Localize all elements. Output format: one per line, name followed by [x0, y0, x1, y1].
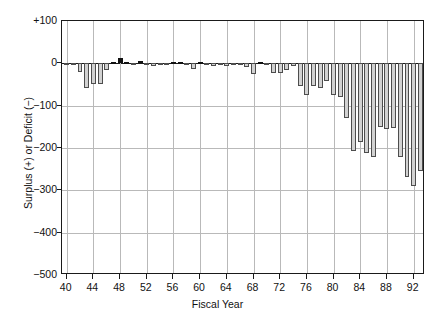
- bar: [311, 63, 316, 86]
- x-axis-tick-label: 72: [273, 281, 285, 293]
- bar: [398, 63, 403, 157]
- bar: [218, 63, 223, 65]
- y-axis-tick-label: −300: [33, 183, 57, 195]
- y-axis-tick-mark: [57, 147, 61, 148]
- x-axis-tick-mark: [199, 274, 200, 279]
- bar: [104, 63, 109, 70]
- bar: [191, 63, 196, 69]
- x-axis-tick-mark: [333, 274, 334, 279]
- x-axis-tick-label: 88: [380, 281, 392, 293]
- y-axis-tick-mark: [57, 62, 61, 63]
- x-axis-tick-mark: [359, 274, 360, 279]
- x-axis-tick-mark: [146, 274, 147, 279]
- x-axis-tick-mark: [386, 274, 387, 279]
- bar: [144, 63, 149, 65]
- x-axis-tick-label: 56: [167, 281, 179, 293]
- bar: [298, 63, 303, 85]
- y-axis-tick-label: −500: [33, 268, 57, 280]
- bar: [78, 63, 83, 72]
- x-axis-tick-label: 84: [353, 281, 365, 293]
- bar: [244, 63, 249, 67]
- y-axis-tick-mark: [57, 105, 61, 106]
- bar: [164, 63, 169, 65]
- bar: [98, 63, 103, 83]
- x-axis-tick-label: 92: [407, 281, 419, 293]
- x-axis-tick-mark: [279, 274, 280, 279]
- bar: [291, 63, 296, 66]
- y-axis-label: Surplus (+) or Deficit (−): [22, 38, 34, 268]
- bar: [371, 63, 376, 157]
- bar: [418, 63, 423, 171]
- x-axis-tick-mark: [92, 274, 93, 279]
- bar: [384, 63, 389, 129]
- x-axis-tick-label: 68: [247, 281, 259, 293]
- bar: [411, 63, 416, 186]
- bar: [331, 63, 336, 94]
- plot-area: [61, 20, 424, 274]
- bar: [71, 63, 76, 65]
- y-axis-tick-label: −400: [33, 226, 57, 238]
- bar: [284, 63, 289, 69]
- bar: [124, 62, 129, 64]
- bar: [324, 63, 329, 80]
- x-axis-tick-label: 60: [193, 281, 205, 293]
- bar: [224, 63, 229, 66]
- bar: [198, 62, 203, 64]
- bar: [131, 63, 136, 65]
- x-axis-label: Fiscal Year: [0, 298, 435, 310]
- bar: [278, 63, 283, 73]
- x-axis-tick-label: 40: [60, 281, 72, 293]
- bar: [118, 58, 123, 63]
- bar: [151, 63, 156, 66]
- x-axis-tick-mark: [172, 274, 173, 279]
- x-axis-tick-label: 44: [87, 281, 99, 293]
- x-axis-tick-mark: [66, 274, 67, 279]
- bar: [231, 63, 236, 65]
- x-axis-tick-label: 48: [113, 281, 125, 293]
- y-axis-tick-label: −100: [33, 99, 57, 111]
- bar: [304, 63, 309, 94]
- bar-series: [62, 21, 423, 273]
- bar: [84, 63, 89, 88]
- bar: [64, 63, 69, 65]
- bar: [184, 63, 189, 65]
- x-axis-tick-label: 80: [327, 281, 339, 293]
- bar: [91, 63, 96, 83]
- bar: [351, 63, 356, 151]
- bar: [318, 63, 323, 88]
- bar: [264, 63, 269, 65]
- y-axis-tick-label: −200: [33, 141, 57, 153]
- bar: [338, 63, 343, 96]
- bar: [378, 63, 383, 127]
- bar: [211, 63, 216, 66]
- bar: [358, 63, 363, 141]
- x-axis-tick-mark: [413, 274, 414, 279]
- bar: [391, 63, 396, 127]
- bar: [238, 63, 243, 65]
- bar: [251, 63, 256, 74]
- x-axis-tick-label: 64: [220, 281, 232, 293]
- bar: [178, 62, 183, 64]
- bar: [258, 62, 263, 64]
- bar: [405, 63, 410, 177]
- bar: [364, 63, 369, 153]
- x-axis-tick-label: 76: [300, 281, 312, 293]
- x-axis-tick-mark: [306, 274, 307, 279]
- x-axis-tick-mark: [253, 274, 254, 279]
- bar: [171, 62, 176, 64]
- chart-figure: +1000−100−200−300−400−500 Fiscal Year Su…: [0, 0, 435, 322]
- y-axis-tick-label: +100: [33, 14, 57, 26]
- y-axis-tick-mark: [57, 189, 61, 190]
- bar: [271, 63, 276, 73]
- bar: [344, 63, 349, 117]
- bar: [158, 63, 163, 65]
- bar: [111, 62, 116, 64]
- y-axis-tick-mark: [57, 232, 61, 233]
- bar: [204, 63, 209, 65]
- x-axis-tick-mark: [119, 274, 120, 279]
- x-axis-tick-label: 52: [140, 281, 152, 293]
- x-axis-tick-mark: [226, 274, 227, 279]
- bar: [138, 61, 143, 64]
